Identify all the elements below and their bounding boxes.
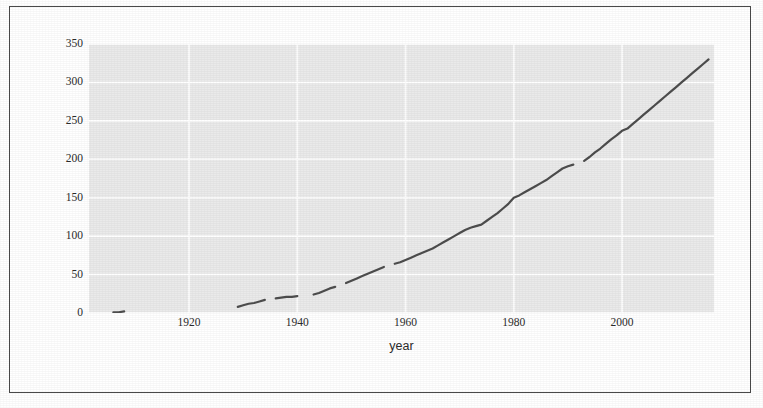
data-line-segment [584, 59, 708, 160]
chart-figure: 050100150200250300350 192019401960198020… [10, 7, 752, 394]
x-axis-title: year [89, 339, 714, 353]
plot-panel [89, 44, 714, 313]
data-line-segment [314, 287, 336, 295]
x-tick-label: 2000 [592, 317, 652, 329]
x-tick-label: 1940 [267, 317, 327, 329]
plot-svg [89, 44, 714, 313]
x-tick-label: 1920 [159, 317, 219, 329]
x-tick-label: 1980 [484, 317, 544, 329]
y-tick-label: 350 [37, 38, 83, 50]
y-tick-label: 200 [37, 154, 83, 166]
y-tick-label: 100 [37, 230, 83, 242]
data-line-segment [276, 296, 298, 298]
y-tick-label: 300 [37, 77, 83, 89]
x-axis: 19201940196019802000 [89, 317, 714, 335]
chart-page: 050100150200250300350 192019401960198020… [0, 0, 763, 408]
data-line-segment [113, 311, 124, 312]
y-tick-label: 0 [37, 307, 83, 319]
data-line-segment [238, 300, 265, 307]
data-line-segment [395, 165, 574, 264]
y-tick-label: 50 [37, 269, 83, 281]
x-tick-label: 1960 [376, 317, 436, 329]
y-axis: 050100150200250300350 [23, 44, 83, 313]
figure-frame: 050100150200250300350 192019401960198020… [9, 6, 751, 393]
y-tick-label: 150 [37, 192, 83, 204]
y-tick-label: 250 [37, 115, 83, 127]
